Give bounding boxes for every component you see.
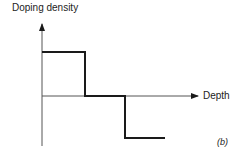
doping-profile-line xyxy=(42,52,165,138)
y-axis-label: Doping density xyxy=(12,2,78,13)
x-axis-label: Depth xyxy=(203,90,230,101)
doping-profile-diagram xyxy=(0,0,241,156)
panel-label: (b) xyxy=(217,137,228,147)
